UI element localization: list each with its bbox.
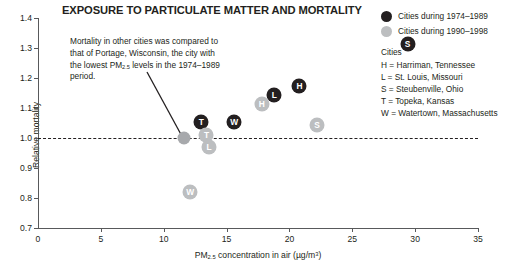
x-tick-label: 25	[348, 234, 358, 244]
reference-line	[38, 138, 478, 139]
x-tick-mark	[227, 228, 228, 232]
legend-entry-label: Cities during 1974–1989	[398, 10, 488, 22]
chart-annotation: Mortality in other cities was compared t…	[70, 36, 220, 83]
x-tick-mark	[478, 228, 479, 232]
data-point-h-1: H	[254, 96, 269, 111]
legend-marker-icon	[381, 11, 392, 22]
y-tick-label: 1.3	[20, 43, 32, 53]
y-tick-label: 1.2	[20, 73, 32, 83]
y-tick-label: 0.8	[20, 193, 32, 203]
data-point-w-1: W	[183, 185, 198, 200]
x-tick-mark	[289, 228, 290, 232]
x-tick-label: 5	[98, 234, 103, 244]
chart-figure: EXPOSURE TO PARTICULATE MATTER AND MORTA…	[0, 0, 515, 270]
x-tick-label: 10	[159, 234, 169, 244]
data-point-w-0: W	[227, 114, 242, 129]
y-tick-mark	[34, 48, 38, 49]
y-tick-mark	[34, 198, 38, 199]
y-axis-line	[38, 18, 39, 228]
y-tick-mark	[34, 108, 38, 109]
x-tick-label: 20	[285, 234, 295, 244]
legend-marker-icon	[381, 26, 392, 37]
x-tick-mark	[164, 228, 165, 232]
y-tick-mark	[34, 228, 38, 229]
legend-city-item: S = Steubenville, Ohio	[381, 83, 515, 95]
y-tick-label: 1.4	[20, 13, 32, 23]
data-point-s-1: S	[310, 117, 325, 132]
legend-city-item: W = Watertown, Massachusetts	[381, 107, 515, 119]
y-tick-label: 0.9	[20, 163, 32, 173]
data-point-h-0: H	[292, 78, 307, 93]
legend-city-item: T = Topeka, Kansas	[381, 95, 515, 107]
x-tick-mark	[415, 228, 416, 232]
x-axis-line	[38, 228, 478, 229]
data-point-l-1: L	[201, 140, 216, 155]
y-tick-mark	[34, 78, 38, 79]
x-tick-label: 30	[410, 234, 420, 244]
y-tick-label: 1.0	[20, 133, 32, 143]
legend-entry-label: Cities during 1990–1998	[398, 25, 488, 37]
legend-entries: Cities during 1974–1989Cities during 199…	[381, 10, 515, 37]
legend-cities-heading: Cities	[381, 46, 515, 58]
x-tick-label: 0	[36, 234, 41, 244]
legend-city-item: L = St. Louis, Missouri	[381, 71, 515, 83]
y-tick-mark	[34, 18, 38, 19]
x-axis-title-mid: concentration in air (µg/m	[216, 250, 316, 260]
annotation-line-1: Mortality in other cities was compared	[70, 36, 209, 46]
annotation-pm-subscript: 2.5	[122, 64, 130, 70]
legend-city-item: H = Harriman, Tennessee	[381, 59, 515, 71]
y-tick-label: 0.7	[20, 223, 32, 233]
y-tick-mark	[34, 168, 38, 169]
x-axis-title-prefix: PM	[195, 250, 208, 260]
legend-city-list: H = Harriman, TennesseeL = St. Louis, Mi…	[381, 59, 515, 119]
legend-entry: Cities during 1974–1989	[381, 10, 515, 22]
x-tick-label: 35	[473, 234, 483, 244]
chart-legend: Cities during 1974–1989Cities during 199…	[381, 10, 515, 119]
data-point-portage-1	[177, 132, 190, 145]
y-tick-label: 1.1	[20, 103, 32, 113]
data-point-l-0: L	[267, 87, 282, 102]
chart-title: EXPOSURE TO PARTICULATE MATTER AND MORTA…	[62, 4, 362, 16]
x-axis-title: PM2.5 concentration in air (µg/m3)	[38, 250, 478, 260]
annotation-line-3-post: levels in the	[130, 60, 176, 70]
x-axis-pm-subscript: 2.5	[208, 254, 216, 260]
x-axis-title-suffix: )	[318, 250, 321, 260]
x-tick-mark	[101, 228, 102, 232]
x-tick-mark	[352, 228, 353, 232]
x-tick-label: 15	[222, 234, 232, 244]
legend-entry: Cities during 1990–1998	[381, 25, 515, 37]
